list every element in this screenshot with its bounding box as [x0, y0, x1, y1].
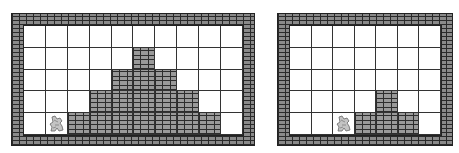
empty-cell	[398, 91, 420, 113]
wall-block	[68, 113, 90, 135]
empty-cell	[290, 91, 312, 113]
empty-cell	[24, 70, 46, 92]
empty-cell	[68, 48, 90, 70]
empty-cell	[68, 70, 90, 92]
empty-cell	[312, 91, 334, 113]
empty-cell	[46, 70, 68, 92]
left-puzzle-grid	[23, 25, 244, 136]
empty-cell	[355, 26, 377, 48]
empty-cell	[419, 91, 441, 113]
empty-cell	[376, 70, 398, 92]
empty-cell	[68, 26, 90, 48]
empty-cell	[419, 26, 441, 48]
wall-block	[155, 91, 177, 113]
empty-cell	[398, 48, 420, 70]
wall-block	[376, 91, 398, 113]
empty-cell	[155, 48, 177, 70]
empty-cell	[24, 113, 46, 135]
wall-block	[355, 113, 377, 135]
empty-cell	[199, 48, 221, 70]
wall-block	[112, 70, 134, 92]
empty-cell	[398, 70, 420, 92]
character-icon	[49, 115, 65, 133]
empty-cell	[90, 26, 112, 48]
wall-block	[376, 113, 398, 135]
wall-block	[133, 91, 155, 113]
empty-cell	[355, 70, 377, 92]
character-icon	[336, 115, 352, 133]
wall-block	[112, 113, 134, 135]
wall-block	[199, 113, 221, 135]
wall-block	[398, 113, 420, 135]
empty-cell	[221, 91, 243, 113]
empty-cell	[24, 26, 46, 48]
empty-cell	[398, 26, 420, 48]
empty-cell	[333, 113, 355, 135]
empty-cell	[333, 70, 355, 92]
empty-cell	[333, 26, 355, 48]
empty-cell	[312, 48, 334, 70]
empty-cell	[312, 113, 334, 135]
empty-cell	[221, 113, 243, 135]
empty-cell	[155, 26, 177, 48]
empty-cell	[312, 26, 334, 48]
empty-cell	[133, 26, 155, 48]
empty-cell	[355, 48, 377, 70]
empty-cell	[46, 113, 68, 135]
empty-cell	[199, 91, 221, 113]
wall-block	[177, 91, 199, 113]
empty-cell	[24, 91, 46, 113]
right-puzzle-board	[277, 13, 453, 146]
empty-cell	[290, 48, 312, 70]
empty-cell	[419, 48, 441, 70]
empty-cell	[221, 48, 243, 70]
empty-cell	[46, 91, 68, 113]
empty-cell	[312, 70, 334, 92]
empty-cell	[112, 48, 134, 70]
wall-block	[112, 91, 134, 113]
empty-cell	[290, 70, 312, 92]
empty-cell	[333, 91, 355, 113]
empty-cell	[90, 48, 112, 70]
empty-cell	[221, 26, 243, 48]
empty-cell	[177, 70, 199, 92]
wall-block	[133, 48, 155, 70]
empty-cell	[333, 48, 355, 70]
empty-cell	[177, 48, 199, 70]
empty-cell	[376, 48, 398, 70]
wall-block	[155, 113, 177, 135]
empty-cell	[199, 70, 221, 92]
empty-cell	[376, 26, 398, 48]
empty-cell	[24, 48, 46, 70]
right-puzzle-grid	[289, 25, 442, 136]
empty-cell	[419, 70, 441, 92]
empty-cell	[46, 26, 68, 48]
empty-cell	[46, 48, 68, 70]
left-puzzle-board	[11, 13, 255, 146]
empty-cell	[290, 26, 312, 48]
empty-cell	[177, 26, 199, 48]
empty-cell	[355, 91, 377, 113]
empty-cell	[90, 70, 112, 92]
empty-cell	[199, 26, 221, 48]
empty-cell	[290, 113, 312, 135]
empty-cell	[112, 26, 134, 48]
empty-cell	[68, 91, 90, 113]
empty-cell	[419, 113, 441, 135]
wall-block	[155, 70, 177, 92]
wall-block	[133, 70, 155, 92]
empty-cell	[221, 70, 243, 92]
wall-block	[90, 113, 112, 135]
wall-block	[90, 91, 112, 113]
wall-block	[133, 113, 155, 135]
wall-block	[177, 113, 199, 135]
